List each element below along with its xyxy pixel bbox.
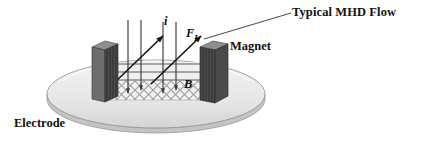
mhd-flow-leader-line <box>204 13 291 39</box>
label-typical-mhd-flow: Typical MHD Flow <box>292 6 396 19</box>
force-symbol-subscript: L <box>194 33 199 43</box>
magnet-left <box>92 41 118 102</box>
label-current-symbol: i <box>164 15 167 28</box>
magnet-right-side-face <box>215 44 228 103</box>
magnet-right-front-face <box>200 47 215 103</box>
magnet-right <box>200 41 228 103</box>
mhd-diagram-figure: Typical MHD Flow Magnet Electrode i FL B <box>0 0 422 145</box>
label-electrode: Electrode <box>14 117 65 130</box>
magnet-left-side-face <box>92 47 105 102</box>
label-magnet: Magnet <box>230 40 271 53</box>
label-lorentz-force-symbol: FL <box>186 27 200 42</box>
magnet-left-front-face <box>105 44 118 102</box>
label-magnetic-field-symbol: B <box>184 78 192 91</box>
